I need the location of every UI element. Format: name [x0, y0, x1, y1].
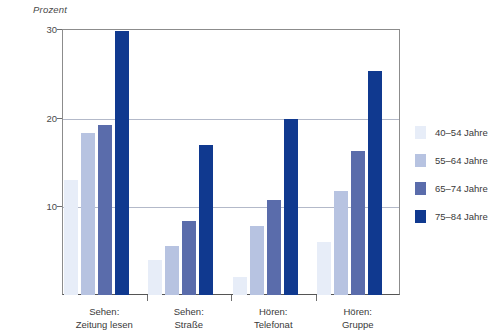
x-axis-label-line: Straße — [147, 319, 232, 332]
x-tick-mark — [231, 295, 232, 301]
legend-label: 55–64 Jahre — [435, 155, 488, 166]
bar — [182, 221, 196, 295]
legend-label: 75–84 Jahre — [435, 211, 488, 222]
x-axis-label-line: Sehen: — [62, 306, 147, 319]
legend-label: 65–74 Jahre — [435, 183, 488, 194]
bars-layer — [62, 29, 400, 295]
x-axis-label-line: Gruppe — [316, 319, 401, 332]
bar-group — [62, 29, 147, 295]
bar — [115, 31, 129, 295]
bar — [81, 133, 95, 295]
bar — [368, 71, 382, 295]
x-axis-label: Hören:Gruppe — [316, 306, 401, 331]
bar — [250, 226, 264, 295]
x-axis-label-line: Zeitung lesen — [62, 319, 147, 332]
legend-swatch — [415, 154, 426, 167]
bar — [351, 151, 365, 295]
x-axis-label-line: Sehen: — [147, 306, 232, 319]
bar — [165, 246, 179, 295]
y-axis: 102030 — [0, 0, 57, 334]
legend-swatch — [415, 210, 426, 223]
bar — [199, 145, 213, 295]
bar — [317, 242, 331, 295]
x-axis-label: Sehen:Straße — [147, 306, 232, 331]
y-tick-label-20: 20 — [23, 112, 57, 123]
y-tick-label-10: 10 — [23, 201, 57, 212]
bar — [148, 260, 162, 295]
x-tick-mark — [316, 295, 317, 301]
x-axis-label: Sehen:Zeitung lesen — [62, 306, 147, 331]
legend-swatch — [415, 126, 426, 139]
bar — [284, 119, 298, 295]
bar — [334, 191, 348, 295]
y-tick-label-30: 30 — [23, 24, 57, 35]
bar-group — [147, 29, 232, 295]
bar — [98, 125, 112, 295]
legend-item[interactable]: 65–74 Jahre — [415, 174, 488, 202]
x-tick-mark — [147, 295, 148, 301]
x-axis-label: Hören:Telefonat — [231, 306, 316, 331]
legend-item[interactable]: 75–84 Jahre — [415, 202, 488, 230]
bar — [267, 200, 281, 295]
bar — [64, 180, 78, 295]
bar-group — [316, 29, 401, 295]
bar — [233, 277, 247, 295]
bar-chart: Prozent 102030 Sehen:Zeitung lesenSehen:… — [0, 0, 503, 334]
x-axis-label-line: Hören: — [316, 306, 401, 319]
x-axis-label-line: Hören: — [231, 306, 316, 319]
legend-item[interactable]: 55–64 Jahre — [415, 146, 488, 174]
legend-label: 40–54 Jahre — [435, 127, 488, 138]
legend-swatch — [415, 182, 426, 195]
legend: 40–54 Jahre55–64 Jahre65–74 Jahre75–84 J… — [415, 118, 488, 230]
legend-item[interactable]: 40–54 Jahre — [415, 118, 488, 146]
x-axis-label-line: Telefonat — [231, 319, 316, 332]
bar-group — [231, 29, 316, 295]
